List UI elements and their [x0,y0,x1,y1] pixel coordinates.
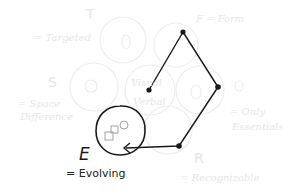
label-s-letter: S [48,74,57,90]
evolving-shapes-icon [105,121,128,140]
label-t-letter: T [86,6,95,22]
point-top [180,29,185,34]
label-essentials: Essentials [232,121,283,132]
heart-icon [235,81,243,91]
circle-targeted [100,17,146,63]
point-right [215,84,221,90]
path-points [146,29,220,148]
zero-glyph [122,35,130,49]
label-difference: Difference [20,111,73,122]
label-evolving: = Evolving [66,167,125,180]
label-recognizable: = Recognizable [180,172,259,183]
label-targeted: = Targeted [34,32,91,43]
label-visual: Visual [131,77,162,88]
egg-icon [191,85,201,99]
diagram-canvas: T = Targeted F = Form S = Space Differen… [0,0,297,196]
label-e-letter: E [79,144,90,164]
label-only: = Only [230,106,265,117]
circle-space [70,63,118,111]
label-form: F = Form [196,13,244,24]
label-verbal: Verbal [133,96,166,107]
evolving-circle [96,106,145,155]
yin-yang-icon [85,80,97,92]
path-line [126,32,218,148]
label-space: = Space [18,98,60,109]
point-start [146,87,151,92]
label-r-letter: R [194,150,204,166]
point-bottom [176,143,182,149]
